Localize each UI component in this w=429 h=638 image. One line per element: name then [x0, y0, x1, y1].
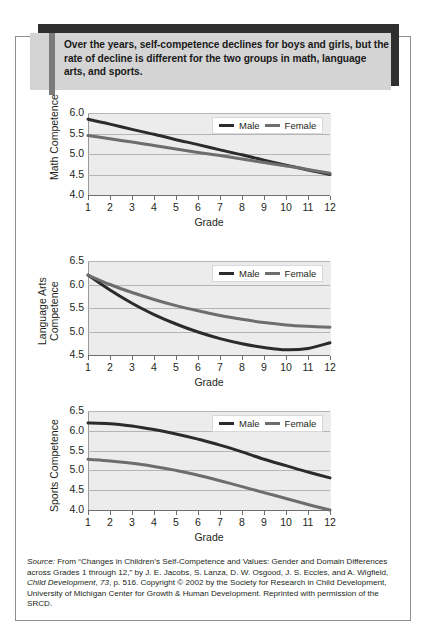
gridline	[88, 451, 330, 452]
caption-callout: Over the years, self-competence declines…	[24, 24, 399, 90]
x-tick-mark	[198, 356, 199, 360]
x-tick-label: 1	[80, 201, 96, 213]
x-tick-mark	[330, 356, 331, 360]
gridline	[88, 411, 330, 412]
x-tick-mark	[286, 196, 287, 200]
x-tick-mark	[154, 511, 155, 515]
x-tick-mark	[110, 196, 111, 200]
x-tick-label: 6	[190, 361, 206, 373]
caption-accent-bar	[49, 33, 55, 95]
x-tick-label: 12	[322, 516, 338, 528]
x-tick-label: 2	[102, 361, 118, 373]
legend-swatch-male	[219, 272, 234, 275]
x-tick-label: 6	[190, 516, 206, 528]
x-tick-mark	[132, 196, 133, 200]
x-tick-mark	[264, 356, 265, 360]
x-tick-label: 4	[146, 361, 162, 373]
x-tick-label: 4	[146, 201, 162, 213]
y-tick-label: 5.5	[58, 301, 84, 313]
x-tick-label: 12	[322, 361, 338, 373]
x-tick-label: 9	[256, 516, 272, 528]
x-tick-mark	[220, 196, 221, 200]
x-axis-label: Grade	[184, 531, 234, 543]
x-tick-mark	[330, 196, 331, 200]
x-axis-label: Grade	[184, 216, 234, 228]
legend-label-male: Male	[239, 418, 260, 429]
x-tick-mark	[286, 356, 287, 360]
x-tick-label: 9	[256, 361, 272, 373]
source-label: Source:	[27, 557, 55, 566]
x-tick-mark	[242, 196, 243, 200]
y-tick-label: 6.5	[58, 404, 84, 416]
x-tick-mark	[220, 511, 221, 515]
x-tick-mark	[154, 356, 155, 360]
gridline	[88, 175, 330, 176]
y-tick-label: 4.5	[58, 483, 84, 495]
x-tick-label: 12	[322, 201, 338, 213]
x-tick-label: 4	[146, 516, 162, 528]
legend-label-female: Female	[285, 418, 317, 429]
source-journal: Child Development	[27, 578, 95, 587]
gridline	[88, 308, 330, 309]
y-tick-label: 5.0	[58, 325, 84, 337]
legend-swatch-male	[219, 422, 234, 425]
x-tick-mark	[88, 511, 89, 515]
legend-swatch-female	[265, 272, 280, 275]
x-tick-mark	[242, 356, 243, 360]
x-tick-label: 1	[80, 516, 96, 528]
source-note: Source: From “Changes in Children’s Self…	[27, 557, 401, 610]
gridline	[88, 113, 330, 114]
x-tick-label: 7	[212, 201, 228, 213]
x-tick-label: 9	[256, 201, 272, 213]
x-tick-mark	[88, 196, 89, 200]
x-tick-label: 3	[124, 361, 140, 373]
gridline	[88, 285, 330, 286]
x-tick-label: 7	[212, 516, 228, 528]
y-tick-label: 5.0	[58, 147, 84, 159]
x-tick-label: 2	[102, 516, 118, 528]
legend-swatch-male	[219, 124, 234, 127]
x-tick-mark	[264, 511, 265, 515]
gridline	[88, 355, 330, 356]
x-tick-label: 8	[234, 201, 250, 213]
legend-label-female: Female	[285, 268, 317, 279]
x-tick-label: 3	[124, 516, 140, 528]
x-tick-label: 1	[80, 361, 96, 373]
x-tick-mark	[132, 511, 133, 515]
x-tick-label: 10	[278, 201, 294, 213]
x-tick-mark	[330, 511, 331, 515]
gridline	[88, 332, 330, 333]
x-tick-label: 5	[168, 516, 184, 528]
gridline	[88, 470, 330, 471]
legend-label-female: Female	[285, 120, 317, 131]
gridline	[88, 195, 330, 196]
caption-text: Over the years, self-competence declines…	[64, 38, 390, 79]
x-tick-mark	[264, 196, 265, 200]
x-tick-mark	[198, 196, 199, 200]
x-tick-mark	[308, 356, 309, 360]
y-tick-label: 6.0	[58, 278, 84, 290]
x-tick-label: 3	[124, 201, 140, 213]
x-tick-mark	[308, 511, 309, 515]
x-tick-label: 11	[300, 201, 316, 213]
y-tick-label: 5.0	[58, 463, 84, 475]
source-line1: From “Changes in Children’s Self-Compete…	[27, 557, 388, 577]
y-tick-label: 6.5	[58, 254, 84, 266]
x-tick-mark	[242, 511, 243, 515]
y-tick-label: 5.5	[58, 127, 84, 139]
x-tick-label: 6	[190, 201, 206, 213]
gridline	[88, 510, 330, 511]
x-tick-label: 2	[102, 201, 118, 213]
y-tick-label: 4.5	[58, 348, 84, 360]
x-tick-label: 11	[300, 516, 316, 528]
x-tick-mark	[308, 196, 309, 200]
chart-legend: MaleFemale	[212, 117, 323, 134]
x-tick-mark	[110, 356, 111, 360]
y-tick-label: 6.0	[58, 106, 84, 118]
gridline	[88, 134, 330, 135]
x-tick-mark	[286, 511, 287, 515]
legend-label-male: Male	[239, 268, 260, 279]
x-tick-mark	[110, 511, 111, 515]
gridline	[88, 261, 330, 262]
x-tick-label: 5	[168, 201, 184, 213]
